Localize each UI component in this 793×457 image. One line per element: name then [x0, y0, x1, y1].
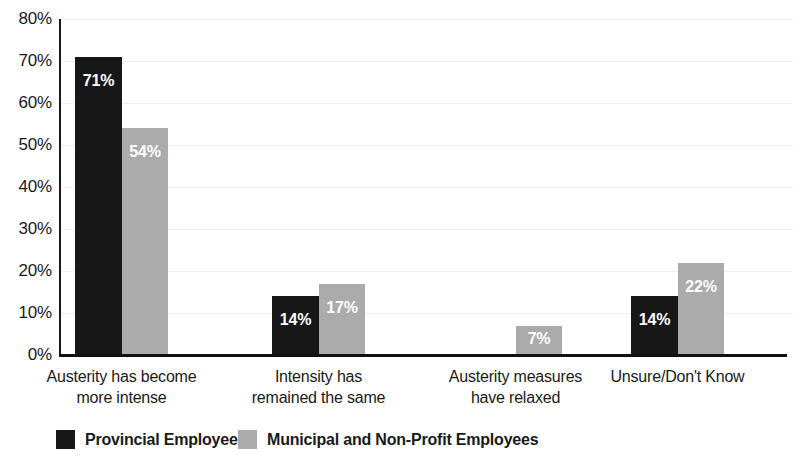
bar[interactable]: 7% [516, 326, 562, 355]
bar-value-label: 22% [678, 279, 724, 295]
plot-area: 71%14%14%54%17%7%22% [60, 19, 793, 355]
bar[interactable]: 17% [319, 284, 365, 355]
bar[interactable]: 22% [678, 263, 724, 355]
gridline [60, 103, 793, 104]
y-axis-tick-label: 20% [0, 262, 52, 279]
category-label-line: more intense [22, 387, 222, 408]
x-axis-line [59, 354, 787, 357]
gridline [60, 61, 793, 62]
bar[interactable]: 71% [75, 57, 122, 355]
y-axis-labels: 80%70%60%50%40%30%20%10%0% [0, 0, 52, 370]
x-axis-category-labels: Austerity has becomemore intenseIntensit… [0, 366, 793, 418]
category-label-line: Intensity has [219, 366, 419, 387]
x-axis-category-label: Intensity hasremained the same [219, 366, 419, 408]
category-label-line: Austerity has become [22, 366, 222, 387]
x-axis-category-label: Austerity has becomemore intense [22, 366, 222, 408]
y-axis-tick-label: 0% [0, 346, 52, 363]
y-axis-line [59, 19, 61, 356]
category-label-line: Unsure/Don't Know [578, 366, 778, 387]
gridline [60, 187, 793, 188]
gridline [60, 19, 793, 20]
chart-legend: Provincial EmployeesMunicipal and Non-Pr… [0, 428, 793, 454]
legend-label: Provincial Employees [85, 430, 246, 449]
y-axis-tick-label: 50% [0, 136, 52, 153]
gridline [60, 229, 793, 230]
bar-value-label: 71% [75, 73, 122, 89]
y-axis-tick-label: 60% [0, 94, 52, 111]
y-axis-tick-label: 30% [0, 220, 52, 237]
legend-swatch-icon [56, 430, 75, 449]
category-label-line: remained the same [219, 387, 419, 408]
bar-value-label: 7% [516, 331, 562, 347]
gridline [60, 145, 793, 146]
category-label-line: have relaxed [416, 387, 616, 408]
bar-chart: 80%70%60%50%40%30%20%10%0% 71%14%14%54%1… [0, 0, 793, 457]
legend-item[interactable]: Provincial Employees [56, 428, 246, 450]
bar[interactable]: 14% [272, 296, 319, 355]
legend-item[interactable]: Municipal and Non-Profit Employees [238, 428, 538, 450]
y-axis-tick-label: 10% [0, 304, 52, 321]
y-axis-tick-label: 70% [0, 52, 52, 69]
legend-swatch-icon [238, 430, 257, 449]
x-axis-category-label: Unsure/Don't Know [578, 366, 778, 387]
legend-label: Municipal and Non-Profit Employees [267, 430, 538, 449]
bar-value-label: 54% [122, 144, 168, 160]
y-axis-tick-label: 80% [0, 10, 52, 27]
bar[interactable]: 14% [631, 296, 678, 355]
y-axis-tick-label: 40% [0, 178, 52, 195]
bar-value-label: 14% [272, 312, 319, 328]
bar[interactable]: 54% [122, 128, 168, 355]
bar-value-label: 17% [319, 300, 365, 316]
bar-value-label: 14% [631, 312, 678, 328]
